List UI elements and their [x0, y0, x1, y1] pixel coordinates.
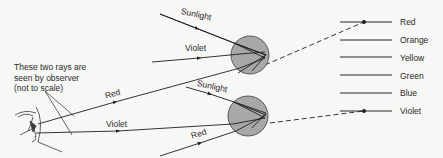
spectrum-label-yellow: Yellow — [400, 54, 424, 63]
observer-violet-label: Violet — [106, 120, 127, 129]
annotation-line-2: seen by observer — [14, 73, 124, 84]
spectrum-bars — [340, 22, 392, 111]
spectrum-label-orange: Orange — [400, 36, 428, 45]
red-dashed-extension — [258, 22, 364, 68]
observer-eye-icon — [15, 107, 62, 152]
top-raindrop — [231, 36, 269, 74]
top-violet-exit-ray — [152, 54, 240, 62]
violet-dashed-extension — [262, 111, 364, 124]
annotation-line-1: These two rays are — [14, 62, 124, 73]
spectrum-label-blue: Blue — [400, 89, 417, 98]
annotation-pointers — [45, 91, 74, 135]
top-violet-label: Violet — [185, 44, 206, 53]
spectrum-label-red: Red — [400, 18, 416, 27]
spectrum-label-violet: Violet — [400, 107, 421, 116]
spectrum-label-green: Green — [400, 72, 424, 81]
